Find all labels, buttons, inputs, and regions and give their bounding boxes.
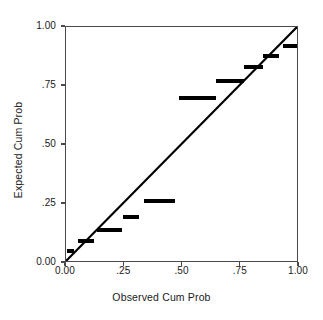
data-point <box>70 249 74 253</box>
y-axis-tick-label: .25 <box>0 198 56 208</box>
data-point <box>295 44 297 48</box>
y-axis-title: Expected Cum Prob <box>12 75 24 225</box>
data-point <box>90 239 94 243</box>
x-axis-tick-label: .25 <box>98 265 148 276</box>
y-axis-tick <box>61 84 65 85</box>
y-axis-tick-label: 1.00 <box>0 21 56 31</box>
x-axis-tick-label: 0.00 <box>40 265 90 276</box>
x-axis-tick-label: .50 <box>157 265 207 276</box>
y-axis-tick-label: .50 <box>0 139 56 149</box>
y-axis-tick <box>61 143 65 144</box>
data-point <box>259 65 263 69</box>
data-point <box>171 199 175 203</box>
x-axis-title: Observed Cum Prob <box>0 291 323 303</box>
plot-inner <box>66 27 297 261</box>
plot-area <box>65 26 298 262</box>
reference-line <box>66 27 297 261</box>
data-point <box>135 215 139 219</box>
data-point <box>275 54 279 58</box>
x-axis-tick-label: .75 <box>215 265 265 276</box>
y-axis-tick-label: .75 <box>0 80 56 90</box>
data-point <box>240 79 244 83</box>
normal-pp-plot: 0.00.25.50.751.00 0.00.25.50.751.00 Obse… <box>0 0 323 320</box>
y-axis-tick <box>61 202 65 203</box>
data-point <box>118 228 122 232</box>
y-axis-tick <box>61 25 65 26</box>
data-point <box>212 96 216 100</box>
x-axis-tick-label: 1.00 <box>273 265 323 276</box>
